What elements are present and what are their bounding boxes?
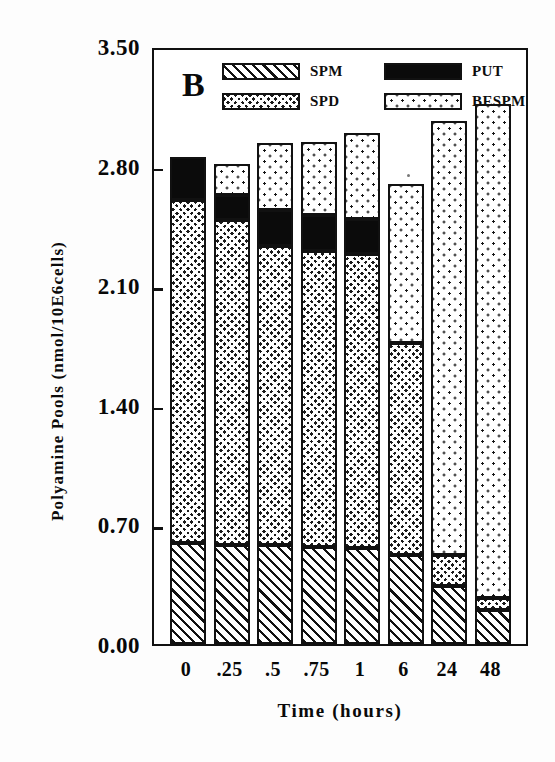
bar-segment-put — [257, 210, 293, 246]
x-axis-title: Time (hours) — [152, 700, 528, 722]
y-axis-tick-label: 0.00 — [52, 633, 140, 659]
y-axis-tick-mark — [154, 408, 163, 411]
bar-segment-put — [344, 219, 380, 255]
bar-segment-spd — [344, 254, 380, 548]
y-axis-tick-mark — [154, 527, 163, 530]
x-axis-tick-label: .25 — [216, 658, 242, 681]
x-axis-tick-labels: 0.25.5.75162448 — [152, 658, 528, 690]
bar-segment-put — [214, 195, 250, 221]
bar-group — [154, 50, 526, 644]
y-axis-tick-mark — [154, 169, 163, 172]
bar-segment-spd — [475, 598, 511, 610]
bar-segment-spm — [301, 547, 337, 644]
y-axis-tick-label: 2.10 — [52, 274, 140, 300]
bar-p25 — [214, 164, 250, 644]
x-axis-tick-label: .5 — [265, 658, 281, 681]
bar-segment-spd — [170, 200, 206, 543]
y-axis-tick-mark — [154, 288, 163, 291]
bar-segment-spm — [475, 610, 511, 644]
y-axis-tick-label: 1.40 — [52, 394, 140, 420]
figure-panel-b: Polyamine Pools (nmol/10E6cells) 3.502.8… — [0, 0, 555, 762]
x-axis-tick-label: 6 — [398, 658, 408, 681]
bar-p5 — [257, 143, 293, 644]
bar-segment-spm — [344, 548, 380, 644]
bar-48 — [475, 104, 511, 644]
y-axis-tick-label: 0.70 — [52, 513, 140, 539]
bar-segment-spd — [257, 246, 293, 545]
bar-segment-spd — [301, 251, 337, 547]
bar-segment-spm — [214, 545, 250, 644]
x-axis-tick-label: 48 — [480, 658, 501, 681]
bar-segment-bespm — [214, 164, 250, 195]
bar-segment-put — [170, 157, 206, 200]
bar-0 — [170, 157, 206, 644]
y-axis-tick-label: 3.50 — [52, 35, 140, 61]
x-axis-tick-label: 0 — [181, 658, 191, 681]
x-axis-tick-label: .75 — [303, 658, 329, 681]
bar-segment-spd — [214, 220, 250, 545]
bar-segment-spd — [388, 343, 424, 555]
bar-segment-bespm — [344, 133, 380, 218]
y-axis-tick-label: 2.80 — [52, 155, 140, 181]
bar-segment-spm — [170, 543, 206, 644]
bar-p75 — [301, 142, 337, 644]
bar-segment-put — [301, 215, 337, 251]
bar-segment-spd — [431, 555, 467, 586]
bar-6 — [388, 184, 424, 644]
bar-24 — [431, 121, 467, 644]
y-axis-tick-labels: 3.502.802.101.400.700.00 — [52, 0, 140, 762]
bar-segment-bespm — [257, 143, 293, 210]
bar-segment-bespm — [431, 121, 467, 555]
plot-area: B SPMPUTSPDBESPM — [152, 48, 528, 646]
bar-segment-bespm — [388, 184, 424, 343]
bar-segment-spm — [388, 555, 424, 644]
x-axis-tick-label: 1 — [355, 658, 365, 681]
bar-1 — [344, 133, 380, 644]
bar-segment-bespm — [301, 142, 337, 215]
bar-segment-spm — [257, 545, 293, 644]
bar-segment-bespm — [475, 104, 511, 598]
x-axis-tick-label: 24 — [437, 658, 458, 681]
bar-segment-spm — [431, 586, 467, 644]
